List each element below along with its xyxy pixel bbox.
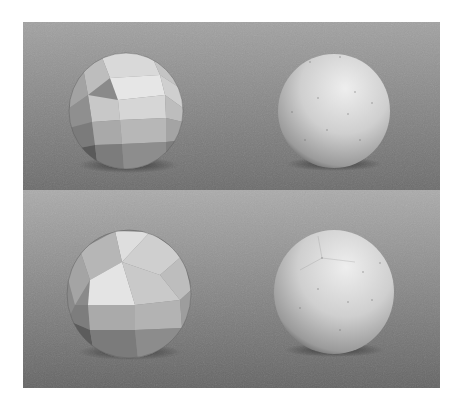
sphere-comparison-figure [0,0,461,407]
